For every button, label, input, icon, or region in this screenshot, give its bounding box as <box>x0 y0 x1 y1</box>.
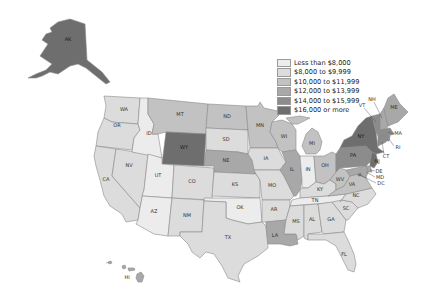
state-ND[interactable]: ND <box>206 104 248 130</box>
state-label-NC: NC <box>352 192 360 198</box>
legend-item: $16,000 or more <box>277 106 359 116</box>
legend-item: Less than $8,000 <box>277 58 359 68</box>
state-label-WV: WV <box>336 176 345 182</box>
state-label-KY: KY <box>317 186 324 192</box>
state-MT[interactable]: MT <box>148 98 208 134</box>
state-label-NE: NE <box>223 157 230 163</box>
state-label-AZ: AZ <box>151 208 158 214</box>
state-label-RI: RI <box>396 144 401 150</box>
state-NJ[interactable]: NJ <box>370 152 380 168</box>
legend-swatch <box>277 97 291 106</box>
state-label-MT: MT <box>176 111 184 117</box>
state-label-OR: OR <box>113 122 121 128</box>
state-label-CA: CA <box>103 176 110 182</box>
state-label-MA: MA <box>394 130 402 136</box>
legend-item: $10,000 to $11,999 <box>277 77 359 87</box>
us-choropleth-map: AK HI WA OR CA NV ID MT WY UT CO AZ NM N… <box>0 0 421 296</box>
state-label-WI: WI <box>281 133 287 139</box>
state-label-CT: CT <box>383 153 390 159</box>
state-label-AR: AR <box>271 206 278 212</box>
legend-label: $12,000 to $13,999 <box>294 87 359 95</box>
state-label-OH: OH <box>321 162 329 168</box>
state-label-MS: MS <box>292 218 300 224</box>
state-label-AL: AL <box>309 216 315 222</box>
state-CO[interactable]: CO <box>172 165 214 200</box>
state-label-ID: ID <box>146 130 151 136</box>
legend-label: Less than $8,000 <box>294 59 351 67</box>
legend-item: $8,000 to $9,999 <box>277 68 359 78</box>
state-label-NH: NH <box>368 96 376 102</box>
state-label-DC: DC <box>377 180 385 186</box>
state-IN[interactable]: IN <box>300 156 316 188</box>
state-label-TX: TX <box>224 234 232 240</box>
state-label-WY: WY <box>180 144 189 150</box>
legend-label: $16,000 or more <box>294 106 349 114</box>
state-label-MO: MO <box>268 182 276 188</box>
state-label-TN: TN <box>311 197 319 203</box>
state-label-ME: ME <box>390 104 397 110</box>
state-label-VT: VT <box>359 102 366 108</box>
state-label-VA: VA <box>349 181 356 187</box>
state-label-HI: HI <box>124 274 129 280</box>
legend-item: $14,000 to $15,999 <box>277 96 359 106</box>
state-label-NJ: NJ <box>374 158 379 164</box>
state-label-SC: SC <box>343 205 350 211</box>
state-label-IL: IL <box>290 166 294 172</box>
state-AR[interactable]: AR <box>262 200 290 222</box>
state-RI[interactable]: RI <box>386 136 400 150</box>
state-label-IA: IA <box>264 155 269 161</box>
state-HI[interactable]: HI <box>106 261 144 282</box>
state-label-PA: PA <box>350 152 357 158</box>
legend-swatch <box>277 59 291 68</box>
state-label-MN: MN <box>256 122 264 128</box>
legend-swatch <box>277 68 291 77</box>
legend-label: $10,000 to $11,999 <box>294 78 359 86</box>
state-label-CO: CO <box>188 178 195 184</box>
state-label-NV: NV <box>125 162 133 168</box>
state-KS[interactable]: KS <box>212 172 260 198</box>
state-ME[interactable]: ME <box>384 94 408 126</box>
state-label-MI: MI <box>309 140 315 146</box>
legend-swatch <box>277 78 291 87</box>
legend-item: $12,000 to $13,999 <box>277 87 359 97</box>
state-NM[interactable]: NM <box>168 198 204 236</box>
state-label-GA: GA <box>327 216 335 222</box>
state-WA[interactable]: WA <box>104 96 140 124</box>
state-WY[interactable]: WY <box>162 132 206 166</box>
legend-swatch <box>277 87 291 96</box>
state-label-UT: UT <box>155 172 163 178</box>
state-label-NM: NM <box>183 212 191 218</box>
legend: Less than $8,000 $8,000 to $9,999 $10,00… <box>277 58 359 115</box>
state-label-WA: WA <box>120 106 129 112</box>
state-label-ND: ND <box>223 113 231 119</box>
legend-label: $8,000 to $9,999 <box>294 68 351 76</box>
state-FL[interactable]: FL <box>308 232 356 272</box>
state-AK[interactable]: AK <box>28 19 110 84</box>
state-label-AK: AK <box>65 36 72 42</box>
state-label-FL: FL <box>341 251 347 257</box>
legend-label: $14,000 to $15,999 <box>294 97 359 105</box>
state-AZ[interactable]: AZ <box>136 196 172 236</box>
state-label-SD: SD <box>222 136 229 142</box>
state-IA[interactable]: IA <box>248 148 286 170</box>
state-label-KS: KS <box>232 181 238 187</box>
state-label-NY: NY <box>358 133 366 139</box>
state-label-LA: LA <box>272 232 279 238</box>
state-label-OK: OK <box>236 204 244 210</box>
legend-swatch <box>277 106 291 115</box>
state-label-IN: IN <box>305 166 310 172</box>
